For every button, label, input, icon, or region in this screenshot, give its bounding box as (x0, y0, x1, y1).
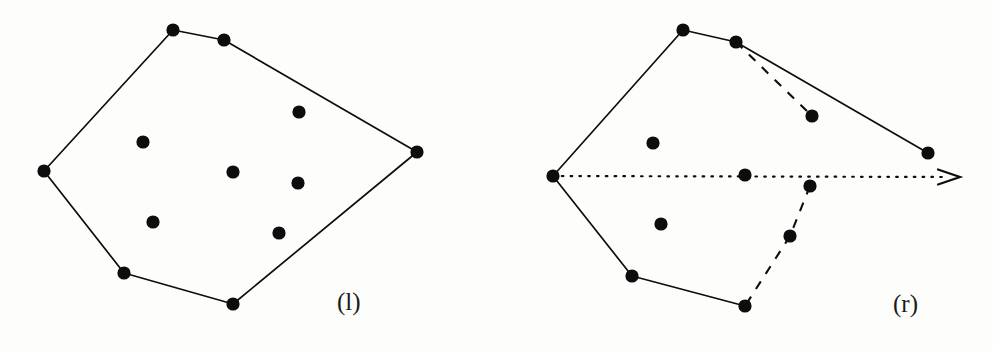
hull-edge-4 (553, 30, 683, 176)
right-hull-solid-edges (553, 30, 928, 306)
right-hull-vertex-0 (676, 23, 689, 36)
right-interior-point-1 (805, 109, 818, 122)
left-interior-point-3 (291, 176, 304, 189)
hull-edge-5 (44, 30, 173, 171)
left-hull-vertex-0 (166, 23, 179, 36)
panel-left (37, 23, 423, 310)
left-interior-point-5 (272, 226, 285, 239)
panel-label-right: (r) (893, 290, 918, 318)
left-interior-point-0 (136, 135, 149, 148)
panel-label-left: (l) (337, 288, 361, 316)
hull-edge-0 (173, 30, 224, 40)
right-hull-vertex-dots (546, 23, 934, 312)
hull-edge-0 (683, 30, 736, 42)
left-hull-vertex-3 (226, 297, 239, 310)
dashed-edge-2 (745, 236, 790, 306)
dashed-edge-1 (790, 186, 810, 236)
right-interior-point-3 (803, 179, 816, 192)
left-interior-point-2 (226, 165, 239, 178)
right-interior-point-5 (783, 229, 796, 242)
left-hull-vertex-5 (37, 164, 50, 177)
hull-edge-3 (124, 273, 233, 304)
right-dotted-ray (553, 170, 960, 185)
geometry-diagram (0, 0, 993, 351)
right-interior-point-4 (654, 217, 667, 230)
figure-canvas: (l) (r) (0, 0, 993, 351)
right-hull-vertex-3 (738, 299, 751, 312)
hull-edge-1 (224, 40, 417, 152)
right-interior-point-2 (738, 168, 751, 181)
right-hull-vertex-1 (729, 35, 742, 48)
right-interior-point-0 (646, 136, 659, 149)
right-hull-vertex-2 (921, 146, 934, 159)
hull-edge-3 (553, 176, 632, 276)
hull-edge-4 (44, 171, 124, 273)
panel-right (546, 23, 960, 312)
left-interior-point-4 (146, 215, 159, 228)
left-hull-vertex-4 (117, 266, 130, 279)
hull-edge-2 (233, 152, 417, 304)
left-hull-vertex-2 (410, 145, 423, 158)
left-interior-point-dots (136, 105, 305, 239)
right-hull-vertex-5 (546, 169, 559, 182)
hull-edge-2 (632, 276, 745, 306)
left-hull-vertex-1 (217, 33, 230, 46)
hull-edge-1 (736, 42, 928, 153)
right-hull-vertex-4 (625, 269, 638, 282)
left-interior-point-1 (292, 105, 305, 118)
